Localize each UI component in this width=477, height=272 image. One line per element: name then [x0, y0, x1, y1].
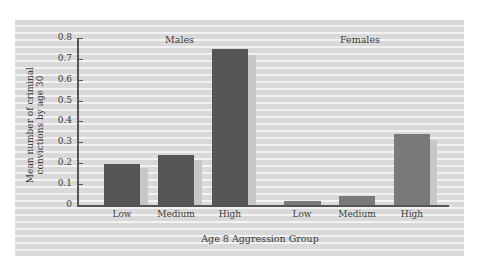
bar-males-high	[212, 49, 248, 205]
x-label-males-high: High	[200, 209, 260, 219]
y-tick	[77, 38, 83, 39]
x-label-females-high: High	[382, 209, 442, 219]
x-axis	[77, 205, 449, 207]
y-tick-label: 0.8	[42, 32, 72, 42]
y-tick-label: 0.5	[42, 95, 72, 105]
bar-males-low	[104, 164, 140, 205]
y-tick	[77, 184, 83, 185]
x-axis-label: Age 8 Aggression Group	[190, 233, 330, 244]
x-label-females-medium: Medium	[327, 209, 387, 219]
bar-females-medium	[339, 196, 375, 205]
y-tick	[77, 142, 83, 143]
y-tick-label: 0.4	[42, 115, 72, 125]
y-tick	[77, 101, 83, 102]
bar-females-low	[284, 201, 321, 205]
y-tick-label: 0.3	[42, 136, 72, 146]
y-tick-label: 0	[42, 199, 72, 209]
y-tick-label: 0.1	[42, 178, 72, 188]
y-tick-label: 0.2	[42, 157, 72, 167]
bar-males-medium	[158, 155, 194, 205]
y-tick	[77, 163, 83, 164]
y-tick-label: 0.6	[42, 74, 72, 84]
y-tick	[77, 80, 83, 81]
x-label-females-low: Low	[272, 209, 332, 219]
y-tick	[77, 121, 83, 122]
x-label-males-medium: Medium	[146, 209, 206, 219]
panel-title-females: Females	[340, 34, 380, 45]
y-tick	[77, 59, 83, 60]
bar-shadow	[194, 160, 202, 205]
y-tick	[77, 205, 83, 206]
bar-shadow	[248, 55, 256, 205]
y-tick-label: 0.7	[42, 53, 72, 63]
y-axis-label-line1: Mean number of criminal	[25, 60, 35, 190]
bar-shadow	[140, 168, 148, 205]
bar-shadow	[430, 140, 437, 205]
panel-title-males: Males	[165, 34, 194, 45]
x-label-males-low: Low	[92, 209, 152, 219]
bar-females-high	[394, 134, 430, 205]
